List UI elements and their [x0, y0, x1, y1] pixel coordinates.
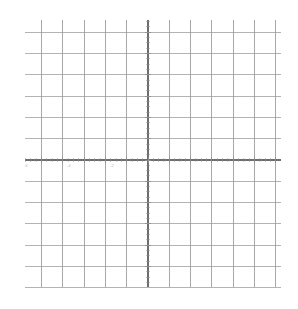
x-axis-tick-label: -2 — [110, 163, 114, 168]
gridlines-group — [25, 20, 281, 288]
x-axis-tick-label: -6 — [24, 163, 28, 168]
coordinate-grid-figure: -6-4-2 — [0, 0, 298, 309]
graph-canvas: -6-4-2 — [0, 0, 298, 309]
x-axis-tick-label: -4 — [67, 163, 71, 168]
x-tick-labels-group: -6-4-2 — [24, 163, 114, 168]
